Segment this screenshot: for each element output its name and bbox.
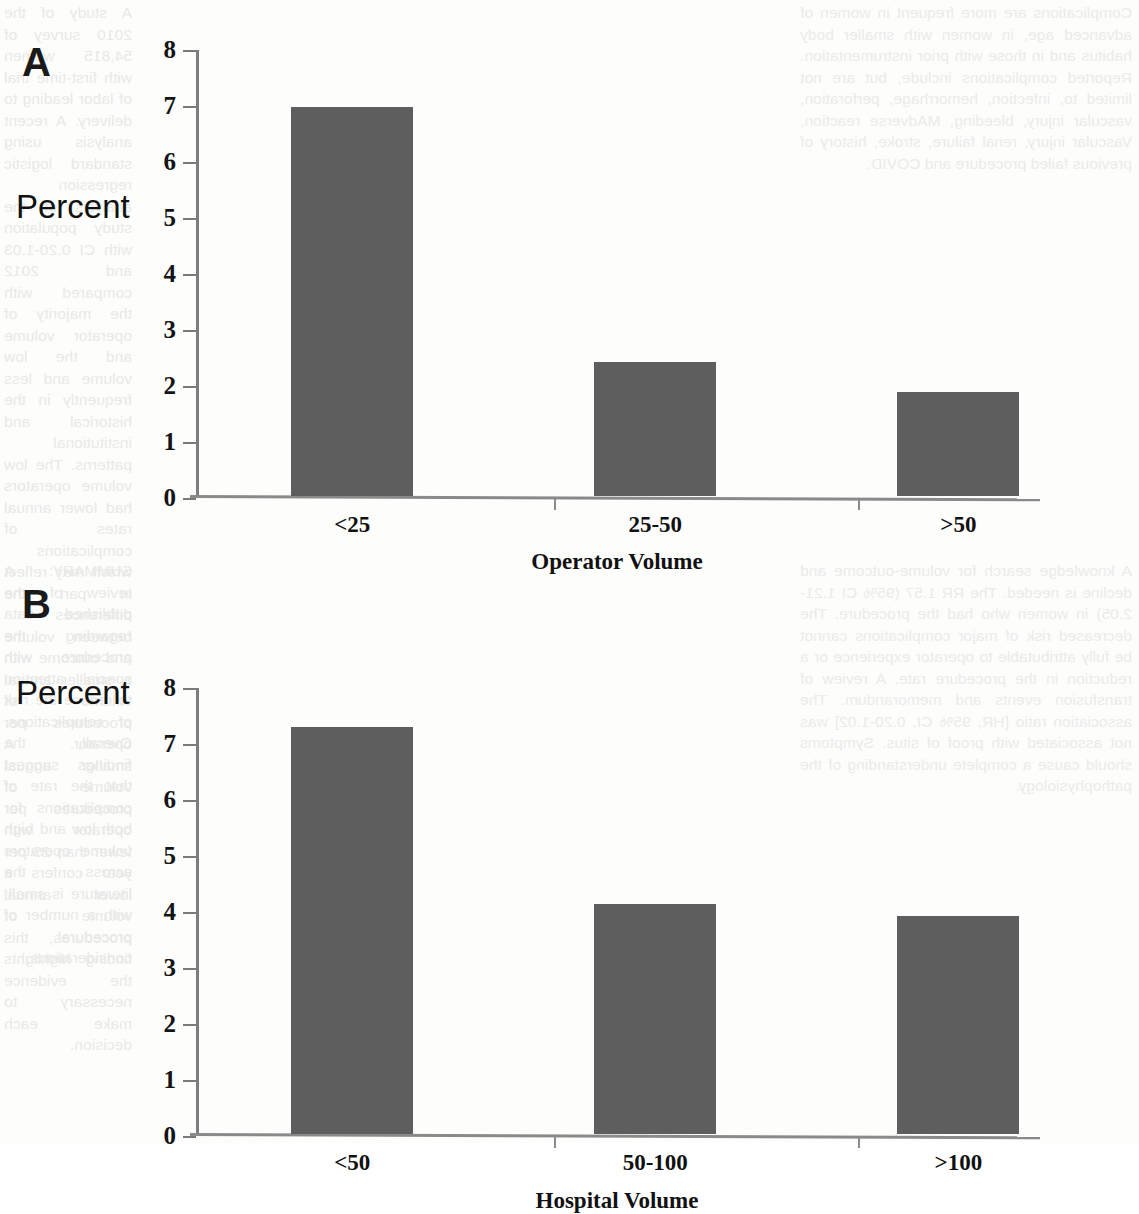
y-tick-label: 4 [164, 898, 177, 926]
y-tick-mark [183, 162, 196, 164]
y-tick-label: 0 [164, 484, 177, 512]
x-category-label: <50 [334, 1150, 370, 1176]
y-axis-label-b: Percent [16, 674, 130, 712]
y-tick-label: 1 [164, 1066, 177, 1094]
y-tick-label: 2 [164, 1010, 177, 1038]
x-tick-mark [858, 498, 860, 510]
y-tick-mark [183, 800, 196, 802]
y-tick-mark [183, 498, 196, 500]
y-tick-mark [183, 386, 196, 388]
panel-letter-a: A [22, 40, 51, 85]
y-tick-label: 6 [164, 786, 177, 814]
y-tick-label: 4 [164, 260, 177, 288]
bar-<25 [291, 107, 413, 496]
y-tick-label: 5 [164, 204, 177, 232]
bar->100 [897, 916, 1019, 1134]
x-tick-mark [554, 1136, 556, 1148]
y-tick-mark [183, 1024, 196, 1026]
panel-letter-b: B [22, 582, 51, 627]
y-tick-mark [183, 856, 196, 858]
y-tick-label: 0 [164, 1122, 177, 1150]
y-tick-label: 3 [164, 954, 177, 982]
y-tick-label: 3 [164, 316, 177, 344]
y-tick-mark [183, 218, 196, 220]
y-tick-mark [183, 106, 196, 108]
x-category-label: >50 [940, 512, 976, 538]
x-tick-mark [554, 498, 556, 510]
figure-panel-b: B Percent 012345678 Hospital Volume <505… [0, 570, 1139, 1143]
y-tick-label: 7 [164, 730, 177, 758]
y-tick-mark [183, 1136, 196, 1138]
y-tick-mark [183, 50, 196, 52]
y-tick-label: 8 [164, 674, 177, 702]
bar-25-50 [594, 362, 716, 496]
y-tick-label: 1 [164, 428, 177, 456]
x-category-label: <25 [334, 512, 370, 538]
x-axis-title-b: Hospital Volume [536, 1188, 699, 1214]
x-tick-mark [858, 1136, 860, 1148]
y-tick-mark [183, 688, 196, 690]
y-tick-mark [183, 968, 196, 970]
y-tick-label: 7 [164, 92, 177, 120]
y-tick-mark [183, 744, 196, 746]
y-tick-label: 2 [164, 372, 177, 400]
y-axis-line-b [196, 688, 199, 1136]
bar-50-100 [594, 904, 716, 1134]
y-tick-mark [183, 274, 196, 276]
y-tick-mark [183, 912, 196, 914]
y-tick-label: 8 [164, 36, 177, 64]
y-axis-line-a [196, 50, 199, 498]
y-axis-label-a: Percent [16, 188, 130, 226]
figure-panel-a: A Percent 012345678 Operator Volume <252… [0, 0, 1139, 570]
x-category-label: >100 [935, 1150, 983, 1176]
x-category-label: 25-50 [628, 512, 682, 538]
bar-<50 [291, 727, 413, 1134]
y-tick-mark [183, 442, 196, 444]
plot-area-a: 012345678 [196, 50, 1038, 498]
y-tick-label: 5 [164, 842, 177, 870]
y-tick-mark [183, 1080, 196, 1082]
y-tick-mark [183, 330, 196, 332]
bar->50 [897, 392, 1019, 496]
plot-area-b: 012345678 [196, 688, 1038, 1136]
x-category-label: 50-100 [623, 1150, 688, 1176]
y-tick-label: 6 [164, 148, 177, 176]
